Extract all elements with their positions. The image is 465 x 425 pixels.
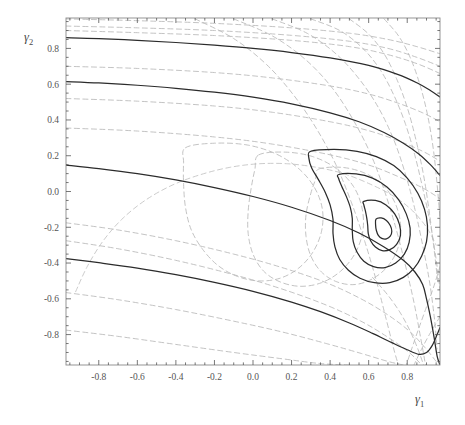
x-tick-label: -0.6 (130, 372, 145, 382)
contour-dashed-top-3 (66, 31, 440, 74)
contour-dashed-mid-2 (66, 98, 440, 161)
x-axis-label-subscript: 1 (420, 399, 424, 409)
y-tick-label: -0.4 (44, 258, 59, 268)
x-tick-label: -0.2 (207, 372, 222, 382)
contour-dashed-corner-a (373, 277, 424, 365)
solid-contour-layer (66, 38, 440, 365)
y-tick-label: -0.8 (44, 330, 59, 340)
y-tick-label: 0.0 (47, 187, 59, 197)
x-tick-label: 0.2 (286, 372, 298, 382)
y-tick-label: -0.6 (44, 294, 59, 304)
contour-dashed-v-1 (349, 19, 438, 285)
contour-solid-loop-outer (308, 149, 427, 283)
contour-solid-loop-core (375, 218, 391, 239)
y-tick-label: 0.8 (47, 44, 59, 54)
contour-dashed-arc-right-1 (311, 19, 440, 290)
dashed-contour-layer (66, 19, 440, 365)
contour-dashed-arc-right-4 (195, 19, 398, 365)
axis-ticks-layer: -0.8-0.6-0.4-0.20.00.20.40.60.8-0.8-0.6-… (44, 18, 440, 382)
contour-dashed-v-2 (384, 19, 440, 218)
contour-plot-figure: γ2 γ1 -0.8-0.6-0.4-0.20.00.20.40.60.8-0.… (0, 0, 465, 425)
x-tick-label: -0.4 (168, 372, 183, 382)
contour-dashed-mid-1 (66, 66, 440, 121)
contour-dashed-lower-4 (66, 330, 349, 365)
contour-dashed-lower-1 (66, 223, 436, 362)
x-tick-label: -0.8 (91, 372, 106, 382)
plot-canvas: -0.8-0.6-0.4-0.20.00.20.40.60.8-0.8-0.6-… (0, 0, 465, 425)
y-axis-label-subscript: 2 (29, 37, 33, 47)
contour-dashed-ellipse-1 (183, 143, 323, 281)
y-tick-label: 0.4 (47, 115, 59, 125)
x-tick-label: 0.0 (247, 372, 259, 382)
x-tick-label: 0.4 (324, 372, 336, 382)
y-tick-label: 0.6 (47, 80, 59, 90)
contour-dashed-arc-right-3 (234, 19, 426, 365)
y-axis-label: γ2 (24, 30, 33, 47)
x-tick-label: 0.8 (401, 372, 413, 382)
contour-solid-contour-1 (66, 38, 440, 97)
contour-solid-loop-middle (337, 174, 410, 268)
contour-solid-contour-4 (66, 259, 440, 355)
contour-dashed-mid-3 (66, 128, 440, 199)
contour-dashed-lower-3 (66, 293, 403, 365)
y-tick-label: -0.2 (44, 223, 59, 233)
x-tick-label: 0.6 (363, 372, 375, 382)
x-axis-label: γ1 (415, 392, 424, 409)
y-tick-label: 0.2 (47, 151, 59, 161)
contour-solid-contour-2 (66, 82, 440, 176)
